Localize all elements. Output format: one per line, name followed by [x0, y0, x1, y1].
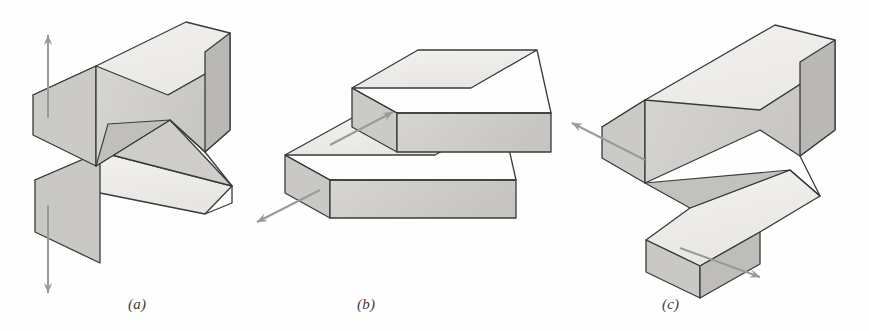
upper-block-right-end-face: [205, 33, 230, 152]
panel-b-mode-II: [257, 50, 551, 222]
panel-b-upper-side-face: [397, 113, 551, 152]
panel-caption-c: (c): [662, 296, 679, 313]
panel-caption-a: (a): [128, 296, 146, 313]
panel-c-mode-III: [572, 25, 835, 298]
figure-canvas: [0, 0, 869, 331]
panel-c-upper-block: [602, 25, 835, 183]
panel-a-mode-I: [33, 22, 232, 293]
lower-block-front-face: [35, 152, 100, 263]
panel-caption-b: (b): [357, 296, 375, 313]
panel-b-lower-front-face: [285, 155, 330, 218]
panel-b-upper-top-face: [352, 50, 537, 88]
fracture-modes-figure: (a) (b) (c): [0, 0, 869, 331]
panel-b-lower-side-face: [330, 180, 516, 218]
upper-block-front-face: [33, 66, 96, 166]
panel-b-upper-block: [352, 50, 551, 152]
